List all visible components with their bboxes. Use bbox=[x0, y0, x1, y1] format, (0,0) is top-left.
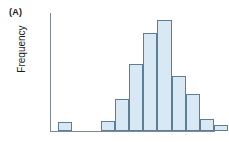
histogram-bar bbox=[143, 33, 157, 132]
histogram-bar bbox=[101, 121, 115, 131]
histogram-bar bbox=[214, 125, 228, 131]
histogram-bar bbox=[129, 64, 143, 131]
plot-area bbox=[50, 13, 215, 132]
histogram-bar bbox=[115, 99, 129, 131]
histogram-bar bbox=[172, 76, 186, 131]
histogram-bar bbox=[58, 122, 72, 131]
histogram-bar bbox=[200, 119, 214, 131]
y-axis-label: Frequency bbox=[17, 6, 27, 92]
histogram-bars bbox=[50, 13, 215, 132]
histogram-bar bbox=[157, 20, 171, 131]
histogram-figure: (A) Frequency bbox=[0, 0, 229, 142]
histogram-bar bbox=[186, 94, 200, 131]
